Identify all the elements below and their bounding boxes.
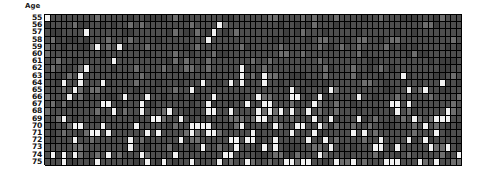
heatmap-grid[interactable] (44, 14, 462, 165)
heatmap-row (45, 44, 462, 51)
heatmap-cell[interactable] (457, 159, 463, 166)
heatmap-cell[interactable] (457, 101, 463, 108)
heatmap-cell[interactable] (457, 58, 463, 65)
heatmap-cell[interactable] (457, 94, 463, 101)
heatmap-row (45, 80, 462, 87)
heatmap-cell[interactable] (457, 65, 463, 72)
heatmap-row (45, 123, 462, 130)
heatmap-row (45, 130, 462, 137)
heatmap-cell[interactable] (457, 144, 463, 151)
heatmap-row (45, 65, 462, 72)
heatmap-cell[interactable] (457, 130, 463, 137)
heatmap-row (45, 87, 462, 94)
heatmap-row (45, 51, 462, 58)
heatmap-cell[interactable] (457, 87, 463, 94)
heatmap-row (45, 94, 462, 101)
heatmap-cell[interactable] (457, 44, 463, 51)
heatmap-cell[interactable] (457, 15, 463, 22)
heatmap-cell[interactable] (457, 51, 463, 58)
heatmap-row (45, 22, 462, 29)
heatmap-row (45, 159, 462, 166)
heatmap-row (45, 37, 462, 44)
y-axis-title: Age (25, 2, 40, 11)
heatmap-cell[interactable] (457, 137, 463, 144)
heatmap-row (45, 29, 462, 36)
heatmap-row (45, 15, 462, 22)
heatmap-cell[interactable] (457, 123, 463, 130)
heatmap-cell[interactable] (457, 37, 463, 44)
y-axis-tick-labels: 5556575859606162636465666768697071727374… (24, 14, 42, 165)
heatmap-cell[interactable] (457, 22, 463, 29)
heatmap-cell[interactable] (457, 29, 463, 36)
heatmap-row (45, 108, 462, 115)
heatmap-cell[interactable] (457, 80, 463, 87)
y-tick-label: 75 (32, 158, 42, 165)
heatmap-row (45, 152, 462, 159)
heatmap-row (45, 58, 462, 65)
heatmap-cell[interactable] (457, 108, 463, 115)
heatmap-row (45, 116, 462, 123)
chart-canvas: Age 555657585960616263646566676869707172… (0, 0, 480, 181)
heatmap-row (45, 137, 462, 144)
heatmap-cell[interactable] (457, 73, 463, 80)
heatmap-cell[interactable] (457, 152, 463, 159)
heatmap-row (45, 144, 462, 151)
heatmap-row (45, 101, 462, 108)
heatmap-row (45, 73, 462, 80)
heatmap-cell[interactable] (457, 116, 463, 123)
